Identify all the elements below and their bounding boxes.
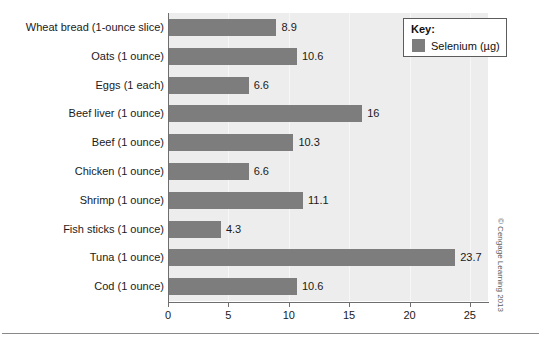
x-tick-label: 15 (343, 309, 355, 321)
bar-value-label: 23.7 (460, 251, 481, 263)
bar (169, 163, 249, 180)
bar-value-label: 16 (367, 107, 379, 119)
x-tick-label: 0 (165, 309, 171, 321)
legend-entry-label: Selenium (µg) (431, 40, 500, 52)
bar (169, 192, 303, 209)
bar-value-label: 11.1 (308, 194, 329, 206)
bar-value-label: 6.6 (254, 79, 269, 91)
category-label: Chicken (1 ounce) (75, 165, 164, 177)
bar-value-label: 10.6 (302, 280, 323, 292)
x-tick-mark (470, 302, 471, 307)
category-label: Shrimp (1 ounce) (80, 194, 164, 206)
x-tick-label: 5 (225, 309, 231, 321)
bar (169, 48, 297, 65)
category-label: Fish sticks (1 ounce) (63, 223, 164, 235)
bar (169, 77, 249, 94)
category-label: Tuna (1 ounce) (90, 251, 164, 263)
legend-title: Key: (411, 23, 435, 35)
legend-key-box: Key: Selenium (µg) (403, 18, 507, 57)
copyright-credit: © Cengage Learning 2013 (496, 218, 505, 312)
bar-value-label: 6.6 (254, 165, 269, 177)
x-tick-mark (168, 302, 169, 307)
x-tick-label: 20 (403, 309, 415, 321)
bar (169, 278, 297, 295)
category-label: Beef (1 ounce) (92, 136, 164, 148)
x-tick-mark (289, 302, 290, 307)
bottom-divider-rule (2, 333, 539, 334)
bar (169, 105, 362, 122)
bar-value-label: 8.9 (281, 21, 296, 33)
x-tick-mark (228, 302, 229, 307)
category-label: Wheat bread (1-ounce slice) (26, 21, 164, 33)
bar (169, 134, 293, 151)
x-tick-label: 10 (283, 309, 295, 321)
chart-figure: 0510152025 Wheat bread (1-ounce slice)8.… (0, 0, 541, 346)
x-axis-line (168, 302, 489, 303)
bar (169, 249, 455, 266)
bar-value-label: 10.6 (302, 50, 323, 62)
x-tick-mark (410, 302, 411, 307)
bar-value-label: 10.3 (298, 136, 319, 148)
bar (169, 221, 221, 238)
x-tick-label: 25 (464, 309, 476, 321)
category-label: Cod (1 ounce) (94, 280, 164, 292)
category-label: Eggs (1 each) (96, 79, 164, 91)
category-label: Oats (1 ounce) (91, 50, 164, 62)
category-label: Beef liver (1 ounce) (69, 107, 164, 119)
x-tick-mark (349, 302, 350, 307)
legend-color-swatch-icon (412, 39, 425, 52)
bar (169, 19, 276, 36)
bar-value-label: 4.3 (226, 223, 241, 235)
